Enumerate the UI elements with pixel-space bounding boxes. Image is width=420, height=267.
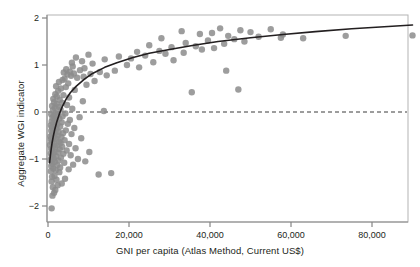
data-point [124, 62, 130, 68]
data-point [48, 205, 54, 211]
data-point [162, 51, 168, 57]
data-point [67, 117, 73, 123]
data-point [78, 135, 84, 141]
data-point [136, 64, 142, 70]
data-point [83, 82, 89, 88]
y-tick-label: −2 [29, 201, 39, 211]
trend-curve [50, 25, 413, 163]
data-point [69, 59, 75, 65]
data-point [409, 32, 415, 38]
data-point [63, 66, 69, 72]
data-point [158, 35, 164, 41]
data-point [108, 170, 114, 176]
data-point [247, 29, 253, 35]
data-point [342, 33, 348, 39]
data-point [82, 158, 88, 164]
data-point [223, 67, 229, 73]
data-point [183, 40, 189, 46]
data-point [101, 108, 107, 114]
data-point [116, 53, 122, 59]
plot-frame [47, 15, 408, 222]
data-point [95, 171, 101, 177]
logarithmic-fit [50, 25, 413, 163]
data-points [47, 25, 416, 211]
data-point [112, 67, 118, 73]
data-point [89, 60, 95, 66]
data-point [80, 98, 86, 104]
data-point [76, 114, 82, 120]
data-point [70, 161, 76, 167]
data-point [63, 127, 69, 133]
data-point [104, 72, 110, 78]
y-tick-label: 0 [34, 107, 39, 117]
x-tick-label: 60,000 [277, 230, 305, 240]
data-point [180, 50, 186, 56]
data-point [79, 58, 85, 64]
data-point [71, 125, 77, 131]
data-point [62, 176, 68, 182]
data-point [85, 51, 91, 57]
y-axis-label: Aggregate WGI indicator [14, 0, 28, 267]
data-point [209, 30, 215, 36]
data-point [81, 65, 87, 71]
data-point [237, 27, 243, 33]
y-tick-label: 2 [34, 13, 39, 23]
x-tick-label: 80,000 [358, 230, 386, 240]
chart-figure: 020,00040,00060,00080,000−2−1012 GNI per… [0, 0, 420, 267]
data-point [197, 31, 203, 37]
data-point [68, 131, 74, 137]
data-point [150, 59, 156, 65]
data-point [170, 57, 176, 63]
axis-tick-labels: 020,00040,00060,00080,000−2−1012 [29, 13, 386, 240]
data-point [211, 45, 217, 51]
data-point [235, 86, 241, 92]
y-tick-label: −1 [29, 154, 39, 164]
data-point [217, 25, 223, 31]
data-point [91, 78, 97, 84]
scatter-plot: 020,00040,00060,00080,000−2−1012 [0, 0, 420, 267]
data-point [60, 92, 66, 98]
data-point [102, 56, 108, 62]
data-point [134, 49, 140, 55]
data-point [178, 28, 184, 34]
data-point [300, 35, 306, 41]
data-point [268, 26, 274, 32]
data-point [72, 145, 78, 151]
data-point [73, 54, 79, 60]
data-point [86, 149, 92, 155]
data-point [146, 42, 152, 48]
data-point [225, 33, 231, 39]
plot-border [47, 15, 408, 222]
x-tick-label: 20,000 [115, 230, 143, 240]
x-tick-label: 0 [45, 230, 50, 240]
x-axis-label: GNI per capita (Atlas Method, Current US… [0, 245, 420, 256]
x-tick-label: 40,000 [196, 230, 224, 240]
data-point [65, 166, 71, 172]
data-point [75, 156, 81, 162]
y-tick-label: 1 [34, 60, 39, 70]
data-point [199, 46, 205, 52]
data-point [189, 89, 195, 95]
data-point [69, 106, 75, 112]
